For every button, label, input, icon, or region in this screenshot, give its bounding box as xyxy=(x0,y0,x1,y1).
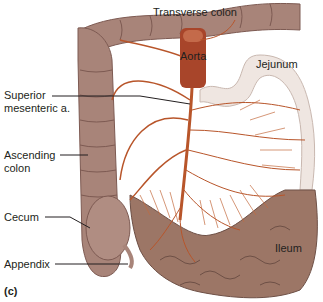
panel-label: (c) xyxy=(4,285,17,297)
label-appendix: Appendix xyxy=(4,258,50,271)
label-ascending-colon-line2: colon xyxy=(4,162,30,175)
leader-superior-mesenteric xyxy=(52,96,190,104)
label-cecum: Cecum xyxy=(4,211,39,224)
label-ascending-colon-line1: Ascending xyxy=(4,149,55,162)
anatomy-diagram: Transverse colon Aorta Jejunum Superior … xyxy=(0,0,323,302)
label-ileum: Ileum xyxy=(275,242,302,255)
leader-cecum xyxy=(45,217,90,228)
